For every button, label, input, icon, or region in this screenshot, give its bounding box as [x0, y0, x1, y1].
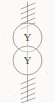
- paper-speck: [3, 38, 4, 39]
- paper-speck: [6, 14, 7, 15]
- paper-speck: [45, 9, 46, 10]
- paper-speck: [14, 95, 15, 96]
- paper-speck: [47, 72, 48, 73]
- paper-speck: [50, 90, 51, 91]
- figure-canvas: Y Y: [0, 0, 55, 103]
- paper-speck: [9, 63, 10, 64]
- paper-speck-layer: [0, 0, 55, 103]
- paper-speck: [41, 46, 42, 47]
